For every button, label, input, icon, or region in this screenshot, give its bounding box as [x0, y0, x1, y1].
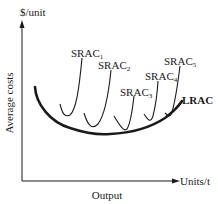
srac-2-label: SRAC2: [98, 59, 131, 73]
srac-3-curve: [114, 96, 134, 130]
y-axis-unit-label: $/unit: [20, 6, 46, 18]
x-axis-arrow-icon: [172, 179, 180, 184]
srac-3-label: SRAC3: [120, 86, 153, 100]
y-axis-arrow-icon: [20, 20, 25, 28]
x-axis-unit-label: Units/t: [180, 175, 210, 187]
lrac-label: LRAC: [182, 94, 213, 106]
y-axis-title: Average costs: [3, 72, 15, 133]
srac-5-label: SRAC5: [164, 55, 197, 69]
srac-1-curve: [60, 58, 82, 116]
lrac-curve: [35, 87, 182, 134]
srac-4-label: SRAC4: [145, 70, 178, 84]
cost-curves-chart: $/unit Units/t Output Average costs SRAC…: [0, 0, 218, 204]
x-axis-title: Output: [92, 189, 123, 201]
srac-2-curve: [84, 70, 111, 127]
